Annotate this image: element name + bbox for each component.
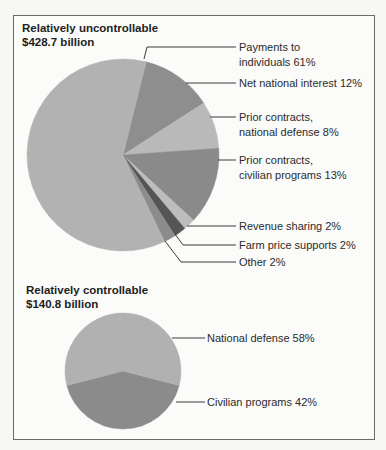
label-revenue-sharing: Revenue sharing 2% — [239, 219, 341, 234]
label-net-interest: Net national interest 12% — [239, 76, 362, 91]
label-prior-defense-line2: national defense 8% — [239, 125, 339, 140]
label-payments: Payments to individuals 61% — [239, 40, 315, 70]
controllable-title: Relatively controllable — [26, 283, 148, 297]
label-revenue-sharing-text: Revenue sharing 2% — [239, 219, 341, 234]
label-other: Other 2% — [239, 255, 285, 270]
label-prior-civilian: Prior contracts, civilian programs 13% — [239, 153, 347, 183]
label-prior-civilian-line2: civilian programs 13% — [239, 168, 347, 183]
uncontrollable-pie — [27, 59, 219, 251]
label-net-interest-text: Net national interest 12% — [239, 76, 362, 91]
uncontrollable-amount: $428.7 billion — [22, 35, 158, 49]
label-prior-defense-line1: Prior contracts, — [239, 110, 339, 125]
uncontrollable-heading: Relatively uncontrollable $428.7 billion — [22, 21, 158, 49]
leader-other — [165, 241, 236, 262]
label-prior-defense: Prior contracts, national defense 8% — [239, 110, 339, 140]
label-prior-civilian-line1: Prior contracts, — [239, 153, 347, 168]
controllable-amount: $140.8 billion — [26, 297, 148, 311]
label-farm-text: Farm price supports 2% — [239, 238, 356, 253]
label-civilian-programs-text: Civilian programs 42% — [207, 395, 317, 410]
label-civilian-programs: Civilian programs 42% — [207, 395, 317, 410]
label-national-defense-text: National defense 58% — [207, 331, 315, 346]
label-payments-line2: individuals 61% — [239, 55, 315, 70]
leader-farm — [175, 234, 236, 245]
uncontrollable-title: Relatively uncontrollable — [22, 21, 158, 35]
controllable-heading: Relatively controllable $140.8 billion — [26, 283, 148, 311]
controllable-pie — [65, 313, 181, 429]
label-payments-line1: Payments to — [239, 40, 315, 55]
label-national-defense: National defense 58% — [207, 331, 315, 346]
label-farm: Farm price supports 2% — [239, 238, 356, 253]
label-other-text: Other 2% — [239, 255, 285, 270]
